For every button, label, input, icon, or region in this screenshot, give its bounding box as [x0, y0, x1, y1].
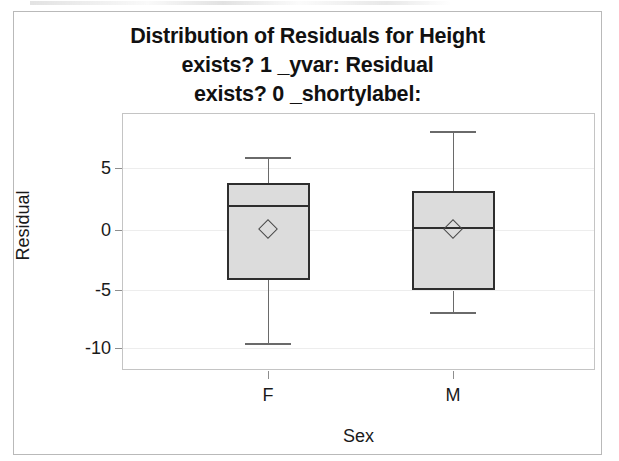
y-axis: 5 0 -5 -10 [45, 0, 111, 461]
whisker-cap-lower [430, 312, 476, 314]
y-tick-label-neg5: -5 [51, 281, 111, 299]
whisker-cap-upper [245, 157, 291, 159]
y-tick-mark-0 [115, 230, 122, 231]
x-tick-mark-m [453, 371, 454, 379]
y-tick-label-5: 5 [51, 159, 111, 177]
gridline-0 [123, 230, 594, 231]
y-tick-mark-5 [115, 168, 122, 169]
y-tick-label-0: 0 [51, 221, 111, 239]
y-axis-title: Residual [13, 156, 34, 296]
whisker-upper [453, 131, 454, 192]
y-tick-label-neg10: -10 [51, 339, 111, 357]
y-tick-mark-neg10 [115, 348, 122, 349]
gridline-5 [123, 168, 594, 169]
x-tick-mark-f [268, 371, 269, 379]
x-tick-label-f: F [228, 385, 308, 406]
plot-area [122, 113, 595, 370]
x-tick-label-m: M [413, 385, 493, 406]
median-line [227, 205, 310, 207]
whisker-lower [453, 291, 454, 313]
whisker-cap-upper [430, 131, 476, 133]
whisker-cap-lower [245, 343, 291, 345]
y-tick-mark-neg5 [115, 290, 122, 291]
gridline-neg10 [123, 348, 594, 349]
x-axis-title: Sex [122, 426, 595, 447]
gridline-neg5 [123, 290, 594, 291]
whisker-upper [268, 157, 269, 182]
whisker-lower [268, 280, 269, 343]
box-iqr[interactable] [412, 191, 495, 290]
